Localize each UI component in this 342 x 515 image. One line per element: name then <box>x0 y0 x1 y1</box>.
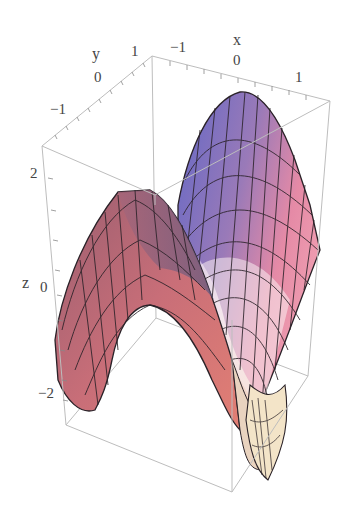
x-tick-neg1: −1 <box>170 40 186 55</box>
y-tick-1: 1 <box>131 44 139 59</box>
surface-back-lobe <box>178 92 320 420</box>
surface-plot <box>0 0 342 515</box>
z-axis-label: z <box>22 275 29 291</box>
x-axis-label: x <box>233 32 241 48</box>
x-tick-1: 1 <box>295 70 303 85</box>
x-tick-0: 0 <box>233 53 241 68</box>
z-tick-neg2: −2 <box>38 386 54 401</box>
y-tick-neg1: −1 <box>50 102 66 117</box>
z-tick-2: 2 <box>30 166 38 181</box>
y-axis-label: y <box>92 46 100 62</box>
y-tick-0: 0 <box>94 70 102 85</box>
z-tick-0: 0 <box>40 280 48 295</box>
